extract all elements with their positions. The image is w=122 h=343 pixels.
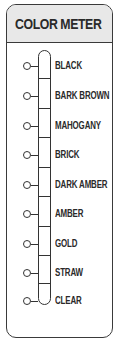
level-label: GOLD <box>55 237 77 249</box>
level-label: DARK AMBER <box>55 178 107 190</box>
meter-level-black: BLACK <box>7 52 113 82</box>
meter-level-bark-brown: BARK BROWN <box>7 82 113 112</box>
marker-stem <box>31 66 38 67</box>
meter-level-straw: STRAW <box>7 259 113 289</box>
level-label: MAHOGANY <box>55 119 101 131</box>
marker-stem <box>31 244 38 245</box>
circle-marker-icon[interactable] <box>23 240 31 248</box>
circle-marker-icon[interactable] <box>23 151 31 159</box>
level-label: BRICK <box>55 148 79 160</box>
circle-marker-icon[interactable] <box>23 210 31 218</box>
marker-stem <box>31 301 38 302</box>
level-label: AMBER <box>55 207 83 219</box>
meter-level-amber: AMBER <box>7 200 113 230</box>
meter-level-gold: GOLD <box>7 230 113 260</box>
level-label: BARK BROWN <box>55 89 109 101</box>
meter-level-brick: BRICK <box>7 141 113 171</box>
page-title: COLOR METER <box>15 15 101 32</box>
marker-stem <box>31 185 38 186</box>
marker-stem <box>31 96 38 97</box>
meter-level-dark-amber: DARK AMBER <box>7 171 113 201</box>
color-meter-card: COLOR METER BLACK BARK BROWN MAHOGANY BR… <box>6 4 113 338</box>
level-label: CLEAR <box>55 294 82 306</box>
marker-stem <box>31 155 38 156</box>
circle-marker-icon[interactable] <box>23 181 31 189</box>
circle-marker-icon[interactable] <box>23 122 31 130</box>
meter-level-mahogany: MAHOGANY <box>7 112 113 142</box>
level-label: BLACK <box>55 59 82 71</box>
circle-marker-icon[interactable] <box>23 62 31 70</box>
circle-marker-icon[interactable] <box>23 297 31 305</box>
circle-marker-icon[interactable] <box>23 92 31 100</box>
header: COLOR METER <box>7 5 112 43</box>
marker-stem <box>31 214 38 215</box>
marker-stem <box>31 126 38 127</box>
circle-marker-icon[interactable] <box>23 269 31 277</box>
meter-level-clear: CLEAR <box>7 288 113 318</box>
marker-stem <box>31 273 38 274</box>
level-label: STRAW <box>55 266 83 278</box>
